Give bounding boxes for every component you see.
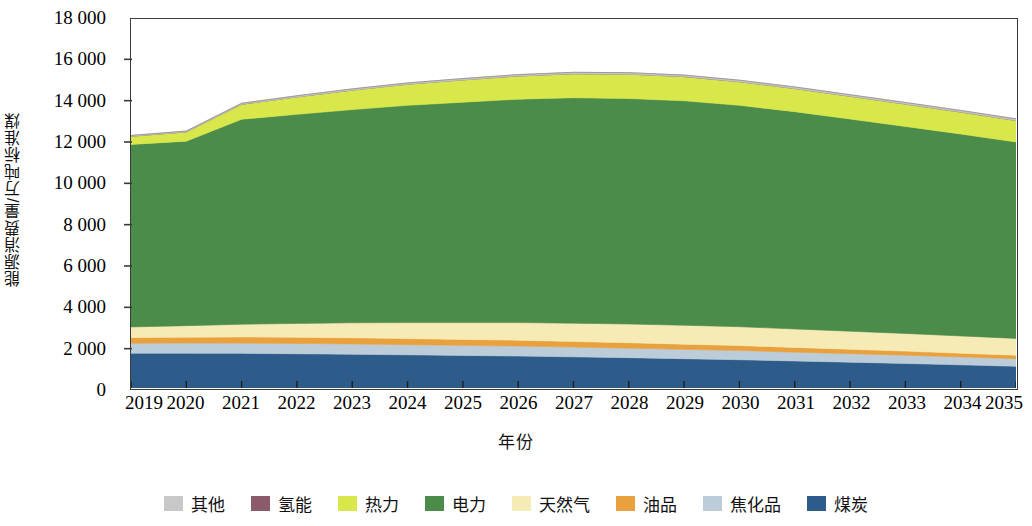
legend-item-油品[interactable]: 油品 [616,491,677,516]
legend-item-label: 焦化品 [730,491,781,516]
legend-swatch-icon [251,496,270,511]
legend-item-天然气[interactable]: 天然气 [512,491,590,516]
legend-item-电力[interactable]: 电力 [425,491,486,516]
legend-swatch-icon [807,496,826,511]
area-band-电力 [131,98,1016,339]
x-tick-label: 2028 [611,392,649,414]
y-axis-tick-labels: 02 0004 0006 0008 00010 00012 00014 0001… [24,0,112,400]
x-axis-tick-labels: 2019202020212022202320242025202620272028… [130,392,1018,418]
legend-item-label: 热力 [365,491,399,516]
x-axis-title-text: 年份 [498,433,534,452]
x-tick-label: 2033 [888,392,926,414]
chart-legend: 其他氢能热力电力天然气油品焦化品煤炭 [0,487,1032,519]
stacked-area-chart: 能源消费量/万吨标准煤 02 0004 0006 0008 00010 0001… [0,0,1032,526]
y-tick-label: 14 000 [54,90,106,112]
legend-item-label: 天然气 [539,491,590,516]
legend-swatch-icon [616,496,635,511]
legend-item-煤炭[interactable]: 煤炭 [807,491,868,516]
y-axis-title-text: 能源消费量/万吨标准煤 [2,112,26,287]
legend-item-label: 油品 [643,491,677,516]
y-tick-label: 16 000 [54,48,106,70]
legend-swatch-icon [425,496,444,511]
y-tick-label: 10 000 [54,172,106,194]
x-tick-label: 2023 [333,392,371,414]
legend-item-其他[interactable]: 其他 [164,491,225,516]
legend-item-label: 其他 [191,491,225,516]
x-tick-label: 2030 [722,392,760,414]
legend-item-label: 电力 [452,491,486,516]
x-tick-label: 2029 [666,392,704,414]
legend-item-氢能[interactable]: 氢能 [251,491,312,516]
legend-item-label: 煤炭 [834,491,868,516]
y-tick-label: 0 [97,379,107,401]
x-tick-label: 2019 [125,392,163,414]
x-tick-label: 2032 [833,392,871,414]
x-tick-label: 2034 [944,392,982,414]
y-tick-label: 12 000 [54,131,106,153]
y-tick-label: 2 000 [63,338,106,360]
x-tick-label: 2026 [500,392,538,414]
x-tick-label: 2025 [444,392,482,414]
y-tick-label: 4 000 [63,296,106,318]
x-tick-label: 2027 [555,392,593,414]
y-axis-tick-marks [118,10,138,400]
x-tick-label: 2031 [777,392,815,414]
x-tick-label: 2035 [985,392,1023,414]
legend-swatch-icon [512,496,531,511]
plot-area [130,18,1018,390]
legend-swatch-icon [703,496,722,511]
y-tick-label: 6 000 [63,255,106,277]
legend-item-label: 氢能 [278,491,312,516]
y-tick-label: 18 000 [54,7,106,29]
x-tick-label: 2024 [389,392,427,414]
x-axis-title: 年份 [0,428,1032,453]
x-tick-label: 2021 [222,392,260,414]
legend-item-热力[interactable]: 热力 [338,491,399,516]
legend-swatch-icon [338,496,357,511]
legend-item-焦化品[interactable]: 焦化品 [703,491,781,516]
x-tick-label: 2022 [278,392,316,414]
legend-swatch-icon [164,496,183,511]
y-tick-label: 8 000 [63,214,106,236]
area-chart-svg [131,19,1016,388]
x-tick-label: 2020 [167,392,205,414]
